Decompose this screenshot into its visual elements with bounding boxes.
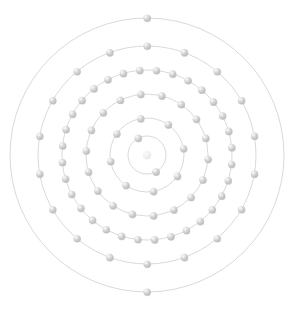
electron — [167, 233, 175, 241]
electron — [68, 191, 76, 199]
electron-highlight — [60, 143, 62, 145]
electron-highlight — [95, 188, 97, 190]
electron-body — [169, 70, 176, 77]
electron-highlight — [229, 162, 231, 164]
electron-body — [224, 177, 231, 184]
electron-highlight — [60, 160, 62, 162]
electron-body — [104, 76, 111, 83]
electron — [88, 127, 96, 135]
electron-highlight — [206, 157, 208, 159]
electron-highlight — [210, 207, 212, 209]
electron-body — [106, 254, 113, 261]
electron-highlight — [137, 68, 139, 70]
electron — [118, 232, 126, 240]
electron-highlight — [104, 227, 106, 229]
electron — [153, 67, 161, 75]
electron — [83, 147, 91, 155]
electron — [158, 92, 166, 100]
electron — [77, 205, 85, 213]
electron-body — [209, 206, 216, 213]
electron-highlight — [121, 71, 123, 73]
electron-body — [118, 232, 125, 239]
electron — [134, 135, 142, 143]
electron — [225, 128, 233, 136]
electron-body — [68, 191, 75, 198]
electron — [107, 158, 115, 166]
electron — [238, 97, 246, 105]
electron — [129, 211, 137, 219]
electron-highlight — [111, 203, 113, 205]
electron-highlight — [78, 206, 80, 208]
electron — [238, 206, 246, 214]
electron-highlight — [84, 148, 86, 150]
electron — [184, 77, 192, 85]
electron — [117, 97, 125, 105]
electron-body — [36, 170, 43, 177]
electron-body — [143, 288, 150, 295]
electron — [251, 132, 259, 140]
nucleus-body — [143, 151, 151, 159]
electron — [136, 67, 144, 75]
electron-body — [62, 126, 69, 133]
electron — [178, 101, 186, 109]
electron — [89, 217, 97, 225]
electron-body — [218, 192, 225, 199]
electron-body — [202, 135, 209, 142]
electron-body — [204, 156, 211, 163]
electron-highlight — [182, 255, 184, 257]
electron — [150, 212, 158, 220]
electron-body — [213, 68, 220, 75]
electron-highlight — [123, 183, 125, 185]
electron-body — [109, 202, 116, 209]
nucleus-highlight — [144, 152, 147, 155]
electron — [73, 235, 81, 243]
electron-body — [213, 235, 220, 242]
electron-body — [129, 211, 136, 218]
electron-highlight — [184, 228, 186, 230]
electron-highlight — [220, 113, 222, 115]
electron-highlight — [179, 102, 181, 104]
bohr-model-diagram: Bohr model electron shell diagram 2, 8, … — [0, 0, 294, 311]
electron-highlight — [108, 159, 110, 161]
electron-body — [219, 112, 226, 119]
electron — [62, 126, 70, 134]
electron-body — [199, 176, 206, 183]
electron-highlight — [138, 116, 140, 118]
electron — [137, 91, 145, 99]
electron — [137, 115, 145, 123]
electron-highlight — [226, 129, 228, 131]
electron — [219, 112, 227, 120]
electron-body — [251, 132, 258, 139]
electron-body — [238, 206, 245, 213]
electron-highlight — [50, 207, 52, 209]
atom-canvas — [0, 0, 294, 311]
electron — [143, 260, 151, 268]
electron-highlight — [154, 68, 156, 70]
electron-body — [59, 159, 66, 166]
electron-highlight — [154, 169, 156, 171]
electron — [199, 176, 207, 184]
electron-body — [228, 144, 235, 151]
electron-body — [225, 128, 232, 135]
electron-highlight — [145, 262, 147, 264]
nucleus-group — [143, 151, 151, 159]
electron-highlight — [159, 93, 161, 95]
electron-body — [49, 97, 56, 104]
electron-highlight — [91, 86, 93, 88]
electron-highlight — [130, 212, 132, 214]
electron-highlight — [203, 136, 205, 138]
electron-highlight — [181, 146, 183, 148]
nucleus — [143, 151, 151, 159]
electron — [69, 111, 77, 119]
electron — [198, 86, 206, 94]
electron-body — [178, 101, 185, 108]
electron-highlight — [118, 98, 120, 100]
electron-highlight — [152, 237, 154, 239]
electron-highlight — [89, 128, 91, 130]
electron-highlight — [239, 207, 241, 209]
electron-body — [180, 145, 187, 152]
electron-highlight — [63, 176, 65, 178]
electron-body — [100, 109, 107, 116]
electron-highlight — [136, 136, 138, 138]
electron — [62, 175, 70, 183]
